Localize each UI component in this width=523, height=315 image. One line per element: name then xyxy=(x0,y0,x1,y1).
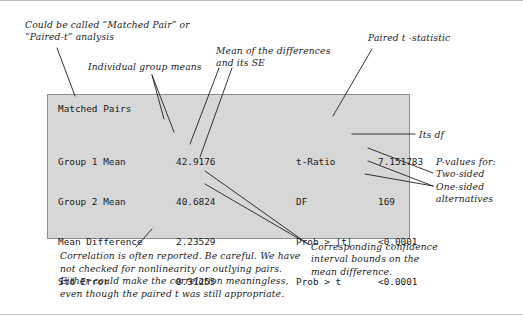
annotation-matched-pair-naming: Could be called “Matched Pair” or “Paire… xyxy=(25,19,190,44)
annotation-paired-t-statistic: Paired t -statistic xyxy=(368,32,450,44)
annotation-p-values-for: P-values for: xyxy=(436,156,496,168)
left-column-labels: Group 1 Mean Group 2 Mean Mean Differenc… xyxy=(58,128,143,315)
row-value-prob-abs-t: <0.0001 xyxy=(378,235,423,248)
row-value-t-ratio: 7.151783 xyxy=(378,155,423,168)
row-label-prob-abs-t: Prob > |t| xyxy=(296,235,352,248)
figure-root: Could be called “Matched Pair” or “Paire… xyxy=(0,0,523,315)
right-column-values: 7.151783 169 <0.0001 <0.0001 1.0000 xyxy=(378,128,423,315)
row-value-df: 169 xyxy=(378,195,423,208)
row-value-mean-difference: 2.23529 xyxy=(176,235,216,248)
annotation-one-sided: One-sided xyxy=(436,181,484,193)
row-value-group-1-mean: 42.9176 xyxy=(176,155,216,168)
annotation-alternatives: alternatives xyxy=(436,193,493,205)
row-value-prob-gt-t: <0.0001 xyxy=(378,275,423,288)
row-label-mean-difference: Mean Difference xyxy=(58,235,143,248)
leader-line-matched-pair-naming xyxy=(57,48,75,96)
row-label-std-error: Std Error xyxy=(58,275,143,288)
row-value-group-2-mean: 40.6824 xyxy=(176,195,216,208)
row-label-group-1-mean: Group 1 Mean xyxy=(58,155,143,168)
row-label-t-ratio: t-Ratio xyxy=(296,155,352,168)
right-column-labels: t-Ratio DF Prob > |t| Prob > t Prob < t xyxy=(296,128,352,315)
matched-pairs-output-panel: Matched Pairs Group 1 Mean Group 2 Mean … xyxy=(47,94,410,239)
annotation-individual-group-means: Individual group means xyxy=(88,61,202,73)
annotation-two-sided: Two-sided xyxy=(436,168,485,180)
row-label-prob-gt-t: Prob > t xyxy=(296,275,352,288)
annotation-mean-of-differences: Mean of the differences and its SE xyxy=(216,45,331,70)
row-label-df: DF xyxy=(296,195,352,208)
row-value-std-error: 0.31255 xyxy=(176,275,216,288)
panel-title: Matched Pairs xyxy=(58,102,131,115)
left-column-values: 42.9176 40.6824 2.23529 0.31255 2.85230 … xyxy=(176,128,216,315)
row-label-group-2-mean: Group 2 Mean xyxy=(58,195,143,208)
